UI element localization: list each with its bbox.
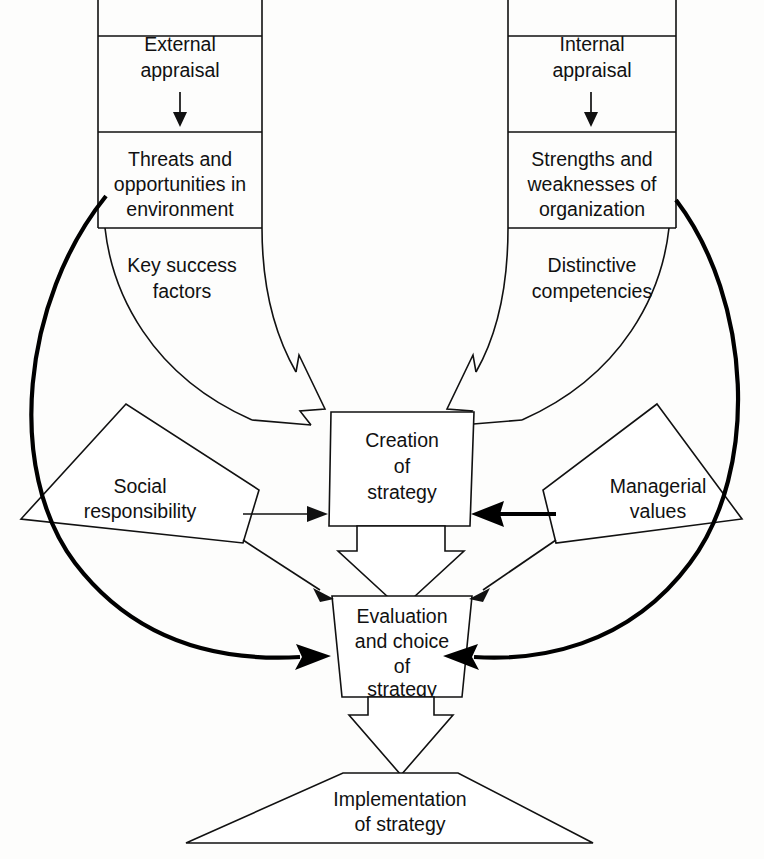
creation-label-line2: of: [394, 455, 411, 477]
social-to-creation-arrow: [243, 506, 328, 522]
implementation-label-line1: Implementation: [333, 788, 466, 810]
social-to-evaluation-arrow: [243, 540, 334, 602]
evaluation-label-line1: Evaluation: [356, 605, 447, 627]
social-to-evaluation-shaft: [243, 540, 320, 590]
managerial-values-label-line1: Managerial: [610, 475, 706, 497]
managerial-values-label-line2: values: [630, 500, 687, 522]
internal-appraisal-label-line1: Internal: [559, 33, 624, 55]
implementation-label-line2: of strategy: [354, 813, 445, 835]
evaluation-and-choice-group: Evaluation and choice of strategy: [332, 596, 472, 700]
curved-block-arrow-icon-left: [296, 355, 325, 425]
distinctive-competencies-label-line1: Distinctive: [548, 254, 637, 276]
managerial-to-evaluation-shaft: [483, 540, 556, 590]
strengths-label-line1: Strengths and: [531, 148, 652, 170]
social-responsibility-label-line1: Social: [113, 475, 166, 497]
evaluation-label-line2: and choice: [355, 630, 449, 652]
external-appraisal-label-line2: appraisal: [140, 59, 219, 81]
key-success-factors-label-line2: factors: [153, 280, 212, 302]
hollow-down-arrow-icon-2: [349, 697, 453, 775]
evaluation-to-implementation-arrow: [349, 697, 453, 775]
creation-of-strategy-group: Creation of strategy: [329, 412, 474, 526]
arrow-head-icon-managerial-creation: [471, 501, 504, 527]
creation-label-line1: Creation: [365, 429, 439, 451]
strategy-diagram-canvas: External appraisal Threats and opportuni…: [0, 0, 764, 859]
arrow-head-icon-social-creation: [307, 506, 328, 522]
left-column-group: External appraisal Threats and opportuni…: [98, 0, 325, 425]
managerial-to-evaluation-arrow: [469, 540, 556, 602]
distinctive-competencies-label-line2: competencies: [532, 280, 653, 302]
down-arrow-icon-internal: [584, 112, 598, 127]
evaluation-label-line3: of: [394, 655, 411, 677]
external-appraisal-label-line1: External: [144, 33, 216, 55]
social-responsibility-wedge-group: Social responsibility: [21, 404, 259, 543]
managerial-to-creation-arrow: [471, 501, 556, 527]
strengths-label-line3: organization: [539, 198, 645, 220]
implementation-group: Implementation of strategy: [186, 773, 593, 843]
down-arrow-icon: [173, 112, 187, 127]
threats-label-line3: environment: [126, 198, 234, 220]
threats-label-line1: Threats and: [128, 148, 232, 170]
arrow-head-icon-social-evaluation: [313, 588, 334, 602]
right-funnel-inner-edge: [476, 228, 508, 372]
key-success-factors-label-line1: Key success: [127, 254, 237, 276]
strategy-diagram: External appraisal Threats and opportuni…: [0, 0, 764, 859]
social-responsibility-label-line2: responsibility: [84, 500, 197, 522]
strengths-label-line2: weaknesses of: [527, 173, 658, 195]
right-column-group: Internal appraisal Strengths and weaknes…: [447, 0, 676, 425]
creation-label-line3: strategy: [367, 481, 437, 503]
left-funnel-inner-edge: [262, 228, 296, 372]
internal-appraisal-label-line2: appraisal: [552, 59, 631, 81]
left-funnel-arrow-base: [252, 420, 311, 425]
threats-label-line2: opportunities in: [114, 173, 246, 195]
arrow-head-icon-left-feedback: [295, 644, 331, 670]
